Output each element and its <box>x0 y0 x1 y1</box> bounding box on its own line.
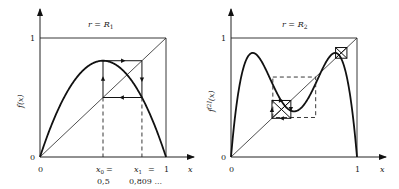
left-x1-value: 0,809 ... <box>129 177 162 186</box>
left-x0-label: x0= <box>96 165 113 175</box>
right-y-tick-0: 0 <box>221 153 226 162</box>
left-cobweb <box>101 59 144 157</box>
left-y-tick-1: 1 <box>30 34 35 43</box>
left-x1-label: x1= <box>134 165 155 175</box>
left-x-tick-0: 0 <box>38 165 43 174</box>
left-y-label: f(x) <box>16 94 25 109</box>
right-y-label: f[2](x) <box>206 90 216 113</box>
left-y-tick-0: 0 <box>30 153 35 162</box>
figure: r = R1 1 0 0 1 x f(x) x0= 0,5 x1= 0,809 … <box>0 0 399 189</box>
left-x-tick-1: 1 <box>164 165 169 174</box>
left-x-label: x <box>188 165 193 174</box>
right-plot: r = R2 1 0 0 1 x f[2](x) <box>206 9 386 174</box>
left-plot: r = R1 1 0 0 1 x f(x) x0= 0,5 x1= 0,809 … <box>16 9 194 186</box>
right-second-iterate-curve <box>231 53 357 157</box>
left-title: r = R1 <box>88 20 113 30</box>
left-x0-value: 0,5 <box>97 177 110 186</box>
right-title: r = R2 <box>282 20 308 30</box>
right-x-label: x <box>380 165 385 174</box>
right-x-tick-1: 1 <box>355 165 360 174</box>
right-y-tick-1: 1 <box>221 34 226 43</box>
right-x-tick-0: 0 <box>229 165 234 174</box>
